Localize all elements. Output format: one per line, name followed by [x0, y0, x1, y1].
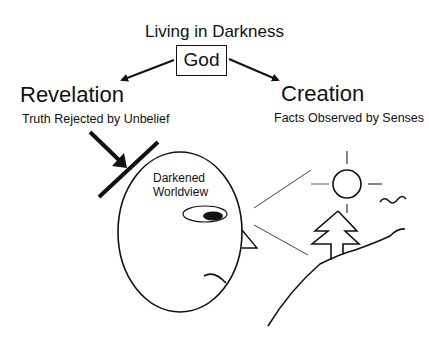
creation-sublabel: Facts Observed by Senses — [274, 111, 424, 125]
revelation-sublabel: Truth Rejected by Unbelief — [22, 112, 170, 126]
revelation-label: Revelation — [20, 82, 124, 108]
worldview-line-1: Darkened — [153, 171, 208, 185]
eye-icon — [183, 206, 227, 222]
god-node: God — [176, 45, 227, 76]
worldview-line-2: Worldview — [153, 185, 208, 199]
sun-icon — [311, 151, 382, 213]
diagram-title: Living in Darkness — [0, 22, 429, 42]
arrow-to-creation-icon — [229, 59, 278, 80]
sight-lines-icon — [254, 170, 311, 255]
creation-label: Creation — [281, 81, 364, 107]
hill-icon — [268, 229, 405, 326]
tree-icon — [312, 211, 359, 260]
worldview-label: Darkened Worldview — [153, 171, 208, 199]
arrow-to-revelation-icon — [122, 60, 174, 80]
bird-icon — [380, 197, 406, 204]
revelation-arrow-icon — [90, 132, 127, 168]
